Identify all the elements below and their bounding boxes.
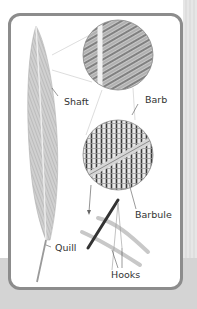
label-barbule: Barbule — [135, 210, 172, 220]
label-hooks: Hooks — [111, 270, 140, 280]
magnified-barbules-circle — [80, 118, 160, 198]
feather-quill — [37, 240, 46, 282]
feather-illustration — [0, 0, 197, 309]
zoom-line — [52, 36, 88, 55]
label-barb: Barb — [145, 95, 167, 105]
zoom-line — [133, 88, 135, 120]
label-quill: Quill — [55, 243, 76, 253]
magnified-barbs-circle — [80, 18, 160, 98]
label-shaft: Shaft — [64, 97, 89, 107]
zoom-line — [52, 70, 92, 82]
feather-vane — [28, 26, 58, 240]
